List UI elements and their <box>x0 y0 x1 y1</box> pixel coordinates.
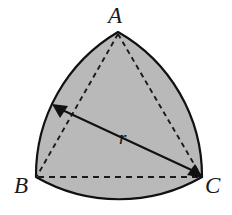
reuleaux-triangle-figure: A B C r <box>0 0 232 215</box>
radius-label: r <box>119 128 126 147</box>
reuleaux-triangle-svg <box>0 0 232 215</box>
vertex-label-a: A <box>108 4 122 27</box>
vertex-label-c: C <box>205 174 220 197</box>
vertex-label-b: B <box>14 174 28 197</box>
